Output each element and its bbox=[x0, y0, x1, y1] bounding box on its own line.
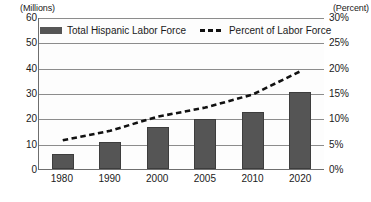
x-axis-tick: 2005 bbox=[181, 174, 229, 190]
right-axis-tick: 15% bbox=[329, 89, 369, 99]
x-axis-tick: 2000 bbox=[133, 174, 181, 190]
legend-item-total-hispanic-labor-force: Total Hispanic Labor Force bbox=[40, 25, 186, 36]
x-axis-tick: 1980 bbox=[38, 174, 86, 190]
right-axis-tick: 20% bbox=[329, 64, 369, 74]
left-axis-tick: 10 bbox=[9, 140, 37, 150]
right-axis-tick: 25% bbox=[329, 38, 369, 48]
left-axis-tick: 50 bbox=[9, 38, 37, 48]
left-axis-tick: 30 bbox=[9, 89, 37, 99]
x-axis-tick: 1990 bbox=[86, 174, 134, 190]
left-axis-tick: 60 bbox=[9, 13, 37, 23]
right-axis-tick: 10% bbox=[329, 114, 369, 124]
legend-label-bar: Total Hispanic Labor Force bbox=[67, 25, 186, 36]
x-axis-tick-labels: 198019902000200520102020 bbox=[38, 174, 324, 190]
left-axis-tick: 40 bbox=[9, 64, 37, 74]
legend-item-percent-of-labor-force: Percent of Labor Force bbox=[200, 25, 331, 36]
legend-label-line: Percent of Labor Force bbox=[229, 25, 331, 36]
x-axis-tick: 2020 bbox=[276, 174, 324, 190]
bar-swatch-icon bbox=[40, 27, 62, 34]
hispanic-labor-force-chart: (Millions) (Percent) 6050403020100 30%25… bbox=[0, 0, 371, 202]
line-series-percent-of-labor-force bbox=[39, 18, 324, 169]
dashed-line-swatch-icon bbox=[200, 29, 224, 32]
plot-area bbox=[38, 18, 324, 170]
right-axis-tick: 0% bbox=[329, 165, 369, 175]
right-axis-tick: 30% bbox=[329, 13, 369, 23]
right-axis-tick: 5% bbox=[329, 140, 369, 150]
left-axis-tick: 0 bbox=[9, 165, 37, 175]
x-axis-tick: 2010 bbox=[229, 174, 277, 190]
left-axis-tick: 20 bbox=[9, 114, 37, 124]
chart-legend: Total Hispanic Labor Force Percent of La… bbox=[40, 25, 331, 36]
